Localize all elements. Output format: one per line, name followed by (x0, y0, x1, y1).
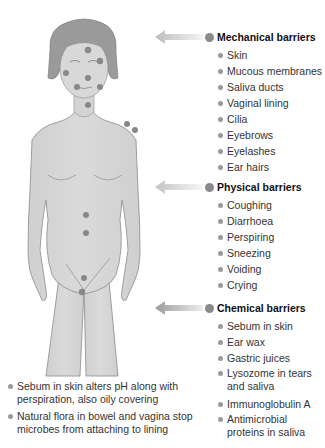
marker-pelvis (81, 275, 87, 281)
group-title: Mechanical barriers (217, 31, 316, 43)
bullet-icon (8, 384, 13, 389)
list-item: Mucous membranes (218, 63, 322, 79)
bullet-icon (218, 417, 223, 422)
bullet-icon (218, 356, 223, 361)
group-chemical-barriers: Chemical barriers Sebum in skin Ear wax … (205, 302, 325, 442)
note-item: Natural flora in bowel and vagina stop m… (8, 410, 198, 436)
note-item: Sebum in skin alters pH along with persp… (8, 380, 198, 406)
group-title: Chemical barriers (217, 302, 306, 314)
bullet-icon (218, 235, 223, 240)
marker-navel (83, 230, 89, 236)
human-figure-illustration (0, 0, 180, 380)
bullet-icon (218, 117, 223, 122)
list-item: Sebum in skin (218, 318, 325, 334)
list-item: Cilia (218, 111, 322, 127)
bullet-icon (218, 267, 223, 272)
list-item: Sneezing (218, 245, 302, 261)
bullet-icon (218, 101, 223, 106)
bullet-icon (218, 165, 223, 170)
marker-groin (79, 289, 85, 295)
group-title: Physical barriers (217, 181, 302, 193)
marker-shoulder-2 (132, 127, 138, 133)
bullet-icon (218, 251, 223, 256)
notes: Sebum in skin alters pH along with persp… (8, 380, 198, 440)
list-item: Crying (218, 277, 302, 293)
bullet-icon (218, 371, 223, 376)
group-mechanical-barriers: Mechanical barriers Skin Mucous membrane… (205, 31, 322, 175)
marker-shoulder-1 (124, 121, 130, 127)
marker-forehead (85, 47, 91, 53)
arrow-physical (155, 180, 203, 194)
list-item: Gastric juices (218, 350, 325, 366)
bullet-icon (205, 183, 214, 192)
torso (28, 110, 140, 301)
list-item: Antimicrobial proteins in saliva (218, 413, 325, 439)
bullet-icon (218, 324, 223, 329)
list-item: Ear wax (218, 334, 325, 350)
group-physical-barriers: Physical barriers Coughing Diarrhoea Per… (205, 181, 302, 293)
marker-ear (63, 70, 69, 76)
list-item: Saliva ducts (218, 79, 322, 95)
bullet-icon (218, 340, 223, 345)
arrow-chemical (155, 301, 203, 315)
bullet-icon (218, 283, 223, 288)
bullet-icon (218, 402, 223, 407)
bullet-icon (218, 203, 223, 208)
marker-nose (85, 75, 91, 81)
list-item: Eyebrows (218, 127, 322, 143)
marker-stomach (83, 212, 89, 218)
list-item: Immunoglobulin A (218, 396, 325, 412)
marker-mouth-left (74, 84, 80, 90)
bullet-icon (205, 304, 214, 313)
marker-throat (85, 102, 91, 108)
list-item: Vaginal lining (218, 95, 322, 111)
marker-eye (97, 58, 103, 64)
list-item: Perspiring (218, 229, 302, 245)
list-item: Lysozome in tears and saliva (218, 367, 325, 393)
bullet-icon (218, 149, 223, 154)
list-item: Voiding (218, 261, 302, 277)
marker-mouth-right (97, 84, 103, 90)
bullet-icon (218, 219, 223, 224)
bullet-icon (8, 414, 13, 419)
list-item: Ear hairs (218, 159, 322, 175)
bullet-icon (218, 133, 223, 138)
bullet-icon (218, 53, 223, 58)
list-item: Diarrhoea (218, 213, 302, 229)
arrow-mechanical (155, 30, 203, 44)
list-item: Skin (218, 47, 322, 63)
bullet-icon (205, 33, 214, 42)
bullet-icon (218, 85, 223, 90)
list-item: Eyelashes (218, 143, 322, 159)
list-item: Coughing (218, 197, 302, 213)
bullet-icon (218, 69, 223, 74)
